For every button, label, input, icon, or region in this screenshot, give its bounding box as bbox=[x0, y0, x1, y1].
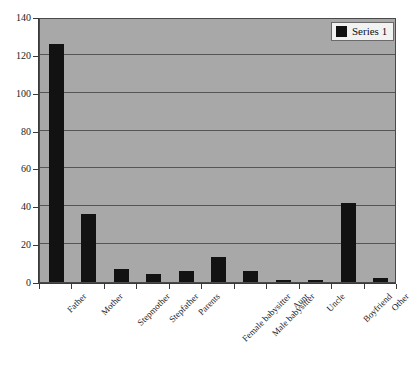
bar bbox=[81, 214, 96, 282]
y-axis-tick-mark bbox=[33, 207, 38, 208]
y-axis-line bbox=[38, 18, 39, 284]
legend-swatch-series-1 bbox=[336, 26, 347, 37]
x-axis-tick-mark bbox=[169, 284, 170, 289]
x-axis-tick-mark bbox=[201, 284, 202, 289]
bar bbox=[308, 280, 323, 282]
x-axis-tick-label: Parents bbox=[197, 292, 222, 317]
plot-area bbox=[39, 18, 396, 283]
x-axis-tick-label: Boyfriend bbox=[362, 292, 394, 324]
y-axis-tick-labels: 020406080100120140 bbox=[0, 0, 31, 373]
gridline bbox=[40, 54, 395, 55]
y-axis-tick-mark bbox=[33, 18, 38, 19]
bar-chart: 020406080100120140 FatherMotherStepmothe… bbox=[0, 0, 416, 373]
x-axis-tick-mark bbox=[104, 284, 105, 289]
y-axis-tick-label: 20 bbox=[1, 240, 31, 250]
x-axis-tick-mark bbox=[39, 284, 40, 289]
x-axis-line bbox=[38, 283, 396, 284]
bar bbox=[276, 280, 291, 282]
y-axis-tick-label: 140 bbox=[1, 13, 31, 23]
x-axis-tick-label: Uncle bbox=[325, 292, 347, 314]
y-axis-tick-label: 60 bbox=[1, 164, 31, 174]
y-axis-tick-mark bbox=[33, 283, 38, 284]
x-axis-tick-label: Stepmother bbox=[136, 292, 172, 328]
bar bbox=[114, 269, 129, 282]
x-axis-tick-mark bbox=[364, 284, 365, 289]
y-axis-tick-label: 40 bbox=[1, 202, 31, 212]
gridline bbox=[40, 92, 395, 93]
bar bbox=[49, 44, 64, 283]
y-axis-tick-label: 120 bbox=[1, 51, 31, 61]
y-axis-tick-mark bbox=[33, 94, 38, 95]
legend[interactable]: Series 1 bbox=[331, 22, 394, 41]
x-axis-tick-mark bbox=[331, 284, 332, 289]
y-axis-tick-mark bbox=[33, 56, 38, 57]
x-axis-tick-mark bbox=[396, 284, 397, 289]
bar bbox=[243, 271, 258, 282]
bar bbox=[373, 278, 388, 282]
x-axis-tick-label: Other bbox=[390, 292, 411, 313]
y-axis-tick-label: 80 bbox=[1, 127, 31, 137]
x-axis-tick-mark bbox=[136, 284, 137, 289]
x-axis-tick-mark bbox=[266, 284, 267, 289]
x-axis-tick-mark bbox=[234, 284, 235, 289]
x-axis-tick-mark bbox=[299, 284, 300, 289]
x-axis-tick-label: Stepfather bbox=[167, 292, 200, 325]
y-axis-tick-label: 0 bbox=[1, 278, 31, 288]
y-axis-tick-mark bbox=[33, 132, 38, 133]
x-axis-tick-label: Father bbox=[66, 292, 89, 315]
x-axis-tick-mark bbox=[71, 284, 72, 289]
y-axis-tick-mark bbox=[33, 245, 38, 246]
bar bbox=[341, 203, 356, 283]
y-axis-tick-mark bbox=[33, 169, 38, 170]
legend-label-series-1: Series 1 bbox=[352, 26, 387, 37]
bar bbox=[146, 274, 161, 282]
y-axis-tick-label: 100 bbox=[1, 89, 31, 99]
bar bbox=[179, 271, 194, 282]
bar bbox=[211, 257, 226, 282]
gridline bbox=[40, 167, 395, 168]
gridline bbox=[40, 130, 395, 131]
x-axis-tick-label: Mother bbox=[99, 292, 124, 317]
